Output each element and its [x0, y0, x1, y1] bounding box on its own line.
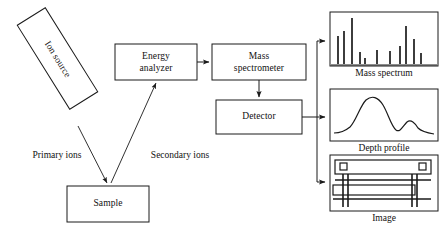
sample-label: Sample [67, 198, 149, 209]
mass-spectrometer-label-line1: Mass [212, 51, 306, 62]
mass-spectrometer-box [212, 44, 306, 80]
sims-diagram: Ion source Energy analyzer Mass spectrom… [0, 0, 446, 237]
energy-analyzer-label-line1: Energy [115, 51, 197, 62]
depth-profile-caption: Depth profile [330, 143, 438, 154]
image-caption: Image [330, 213, 438, 224]
mass-spectrum-caption: Mass spectrum [330, 68, 438, 79]
depth-profile-panel [330, 89, 438, 141]
secondary-ion-arrow [111, 83, 156, 183]
energy-analyzer-box [115, 44, 197, 80]
mass-spectrometer-label-line2: spectrometer [212, 63, 306, 74]
image-panel [330, 155, 438, 211]
detector-label: Detector [216, 111, 302, 122]
secondary-ions-label: Secondary ions [130, 150, 230, 161]
mass-spectrum-panel [330, 12, 438, 66]
energy-analyzer-label-line2: analyzer [115, 63, 197, 74]
primary-ions-label: Primary ions [14, 150, 100, 161]
